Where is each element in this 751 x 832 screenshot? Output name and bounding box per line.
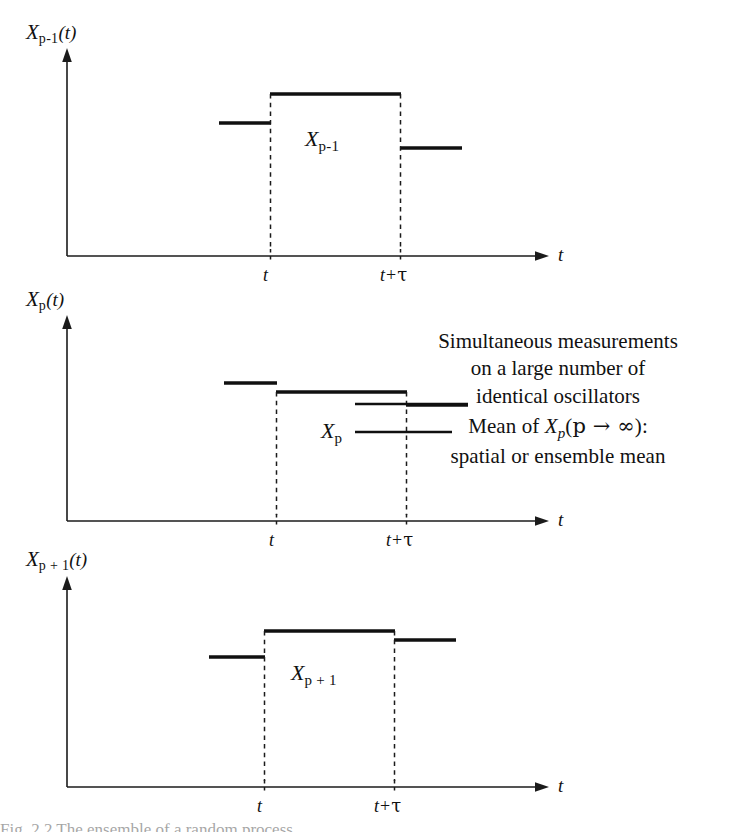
annotation-measurement-line-3: identical oscillators [372,383,744,410]
panel-bottom-tick-operator: + [379,796,391,816]
panel-bottom-plateau-var: X [291,660,304,685]
panel-top-signal [219,94,462,262]
panel-middle-tick-tau: τ [403,529,413,550]
annotation-mean-line-1: Mean of Xp(p → ∞): [372,413,744,443]
annotation-mean-paren-close: ): [635,414,648,438]
annotation-measurement-line-2: on a large number of [372,355,744,382]
panel-bottom-x-axis-label: t [558,776,563,795]
panel-middle-tick-label-t: t [269,531,274,549]
panel-top-plateau-var: X [305,126,318,151]
panel-bottom-y-label-subscript: p + 1 [39,558,69,573]
panel-bottom-y-axis-label: Xp + 1(t) [26,549,87,573]
annotation-mean-limit: p → ∞ [572,414,634,438]
panel-bottom-x-arrow-icon [535,782,549,792]
panel-middle-y-label-argument: (t) [46,289,64,310]
panel-bottom-plateau-label: Xp + 1 [291,662,337,688]
panel-top-tick-operator: + [385,265,397,285]
panel-bottom-y-label-var: X [26,547,39,571]
panel-middle-tick-operator: + [391,530,403,550]
panel-bottom-y-arrow-icon [62,576,72,590]
annotation-block: Simultaneous measurements on a large num… [372,328,744,470]
panel-bottom-tick-tau: τ [391,795,401,816]
annotation-measurement-group: Simultaneous measurements on a large num… [372,328,744,410]
panel-middle-x-arrow-icon [535,516,549,526]
panel-bottom-plateau-subscript: p + 1 [304,672,336,688]
panel-middle-x-axis-label: t [558,510,563,529]
panel-middle-y-label-var: X [26,287,39,311]
annotation-mean-var: X [545,414,558,438]
annotation-measurement-line-1: Simultaneous measurements [372,328,744,355]
panel-top-x-axis-label: t [558,245,563,264]
panel-middle-y-axis-label: Xp(t) [26,289,64,313]
figure-container: Xp-1(t) Xp-1 t t t+τ Xp(t) Xp t t t+τ Xp… [0,0,751,832]
panel-top-y-label-subscript: p-1 [39,31,59,46]
panel-top-tick-tau: τ [397,264,407,285]
panel-bottom-signal [209,631,456,793]
panel-middle-plateau-label: Xp [321,420,342,446]
panel-bottom-tick-label-t-plus-tau: t+τ [374,797,401,815]
panel-middle-plateau-subscript: p [334,430,342,446]
panel-top-axes [62,48,549,261]
panel-middle-y-arrow-icon [62,315,72,329]
panel-top-plateau-label: Xp-1 [305,128,339,154]
panel-middle-plateau-var: X [321,418,334,443]
annotation-mean-group: Mean of Xp(p → ∞): spatial or ensemble m… [372,413,744,470]
panel-top-x-arrow-icon [535,251,549,261]
panel-top-y-axis-label: Xp-1(t) [26,22,76,46]
annotation-mean-line-2: spatial or ensemble mean [372,443,744,470]
panel-top-y-arrow-icon [62,48,72,62]
panel-top-y-label-var: X [26,20,39,44]
annotation-mean-prefix: Mean of [468,414,545,438]
panel-bottom-tick-label-t: t [257,797,262,815]
panel-top-plateau-subscript: p-1 [318,138,339,154]
panel-top-tick-label-t-plus-tau: t+τ [380,266,407,284]
panel-top-y-label-argument: (t) [58,22,76,43]
panel-middle-tick-label-t-plus-tau: t+τ [386,531,413,549]
panel-top-tick-label-t: t [263,266,268,284]
panel-bottom-y-label-argument: (t) [69,549,87,570]
figure-caption: Fig. 2.2 The ensemble of a random proces… [0,820,430,832]
